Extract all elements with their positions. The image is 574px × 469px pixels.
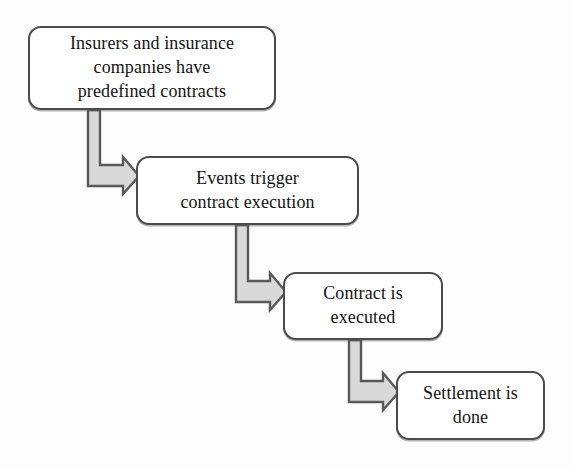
flow-node-events-trigger-contract-execution[interactable]: Events trigger contract execution [136, 156, 359, 225]
flow-node-contract-is-executed[interactable]: Contract is executed [283, 272, 443, 340]
flowchart-canvas: Insurers and insurance companies have pr… [0, 0, 574, 469]
flow-node-label: Events trigger contract execution [180, 167, 314, 215]
connector-node1-to-node2 [88, 110, 139, 194]
flow-node-label: Settlement is done [423, 382, 518, 430]
flow-node-insurers-predefined-contracts[interactable]: Insurers and insurance companies have pr… [28, 26, 276, 110]
flow-node-label: Insurers and insurance companies have pr… [70, 32, 234, 103]
connector-node2-to-node3 [236, 225, 286, 310]
flow-node-settlement-is-done[interactable]: Settlement is done [396, 371, 545, 440]
connector-node3-to-node4 [349, 340, 399, 410]
flow-node-label: Contract is executed [323, 282, 403, 330]
